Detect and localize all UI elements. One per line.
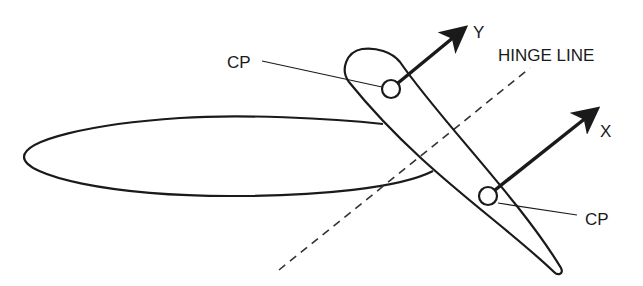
cp-lower-label: CP [585, 210, 609, 229]
hinge-line-label: HINGE LINE [498, 46, 594, 65]
x-axis-label: X [600, 122, 611, 141]
cp-upper-label: CP [227, 53, 251, 72]
cp-lower-leader [498, 203, 577, 215]
body-ellipse [24, 116, 433, 196]
y-axis-label: Y [473, 23, 484, 42]
cp-upper-point [382, 80, 400, 98]
hinge-line [279, 68, 530, 270]
diagram-canvas: CP Y HINGE LINE X CP [0, 0, 643, 286]
x-axis-arrow [495, 113, 592, 190]
cp-upper-leader [262, 61, 382, 87]
fin-hinge-diagram: CP Y HINGE LINE X CP [0, 0, 643, 286]
cp-lower-point [479, 187, 497, 205]
y-axis-arrow [398, 32, 460, 83]
